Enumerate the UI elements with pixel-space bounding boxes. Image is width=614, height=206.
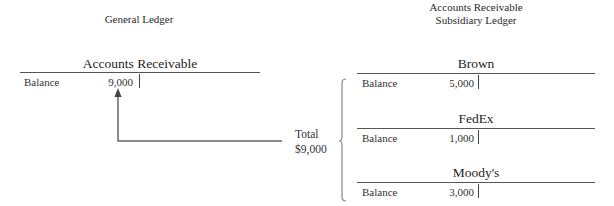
- curly-brace-icon: [339, 79, 346, 201]
- connector-overlay: [0, 0, 614, 206]
- arrow-connector-icon: [115, 88, 283, 141]
